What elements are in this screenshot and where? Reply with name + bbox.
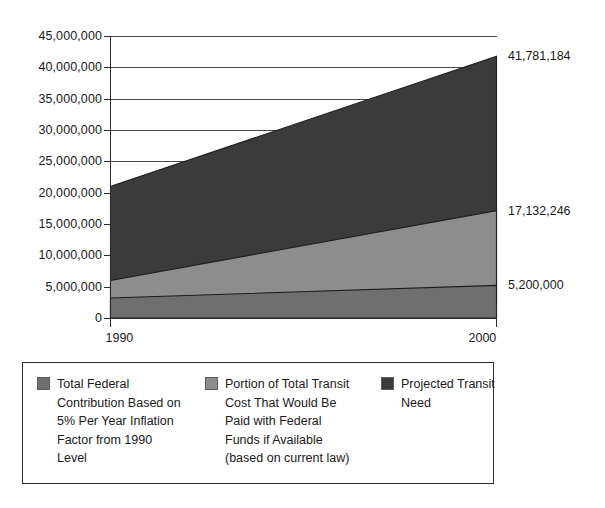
y-axis-tick-label: 15,000,000 bbox=[6, 218, 102, 231]
y-axis-tick-label: 10,000,000 bbox=[6, 249, 102, 262]
y-axis-labels: 05,000,00010,000,00015,000,00020,000,000… bbox=[0, 0, 102, 352]
x-axis-tick-label: 2000 bbox=[469, 332, 497, 345]
legend-entry[interactable]: Projected Transit Need bbox=[381, 375, 501, 412]
y-axis-tick-label: 0 bbox=[6, 312, 102, 325]
legend-label: Portion of Total Transit Cost That Would… bbox=[225, 375, 349, 468]
area-series-group bbox=[111, 56, 497, 318]
y-axis-tick-marks bbox=[104, 37, 111, 319]
series-value-callout: 41,781,184 bbox=[508, 50, 571, 63]
legend-entries: Total Federal Contribution Based on 5% P… bbox=[37, 375, 501, 468]
legend-label: Projected Transit Need bbox=[401, 375, 495, 412]
y-axis-tick-label: 30,000,000 bbox=[6, 124, 102, 137]
y-axis-tick-label: 45,000,000 bbox=[6, 30, 102, 43]
legend-swatch-icon bbox=[37, 377, 50, 390]
x-axis-tick-label: 1990 bbox=[106, 332, 134, 345]
area-chart-figure: 05,000,00010,000,00015,000,00020,000,000… bbox=[0, 0, 605, 352]
x-axis-tick-marks bbox=[111, 318, 497, 327]
legend-swatch-icon bbox=[381, 377, 394, 390]
y-axis-tick-label: 5,000,000 bbox=[6, 281, 102, 294]
legend-entry[interactable]: Total Federal Contribution Based on 5% P… bbox=[37, 375, 205, 468]
series-value-callout: 17,132,246 bbox=[508, 205, 571, 218]
y-axis-tick-label: 20,000,000 bbox=[6, 187, 102, 200]
y-axis-tick-label: 40,000,000 bbox=[6, 61, 102, 74]
y-axis-tick-label: 35,000,000 bbox=[6, 93, 102, 106]
y-axis-tick-label: 25,000,000 bbox=[6, 155, 102, 168]
chart-legend: Total Federal Contribution Based on 5% P… bbox=[22, 362, 494, 484]
series-value-callout: 5,200,000 bbox=[508, 279, 564, 292]
legend-swatch-icon bbox=[205, 377, 218, 390]
legend-label: Total Federal Contribution Based on 5% P… bbox=[57, 375, 181, 468]
legend-entry[interactable]: Portion of Total Transit Cost That Would… bbox=[205, 375, 381, 468]
